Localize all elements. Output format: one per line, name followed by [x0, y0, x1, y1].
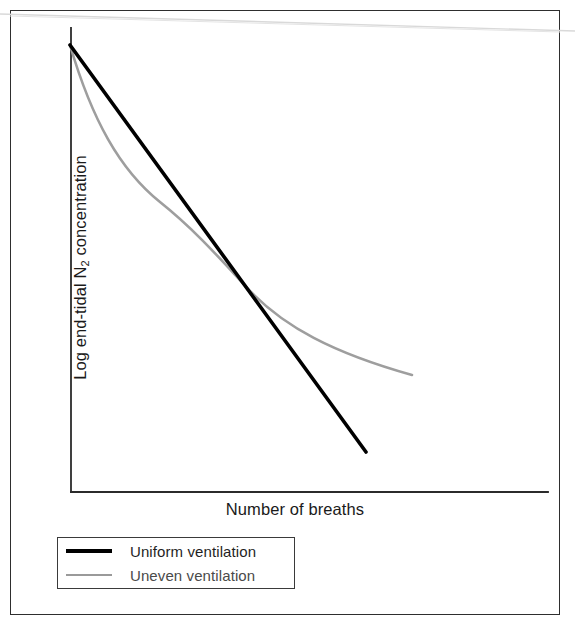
figure-root: Log end-tidal N2 concentration Number of…	[0, 0, 575, 627]
legend-item-uneven-ventilation: Uneven ventilation	[66, 563, 255, 587]
legend-label-uneven-ventilation: Uneven ventilation	[130, 567, 255, 584]
series-line-uneven-ventilation	[70, 45, 412, 375]
legend-swatch-uneven-ventilation	[66, 574, 112, 576]
y-axis-label-suffix: concentration	[71, 155, 89, 260]
series-line-uniform-ventilation	[70, 45, 366, 452]
y-axis-label-subscript: 2	[79, 260, 91, 266]
legend: Uniform ventilation Uneven ventilation	[57, 537, 295, 589]
y-axis-label: Log end-tidal N2 concentration	[71, 128, 90, 408]
legend-swatch-uniform-ventilation	[66, 549, 112, 552]
y-axis-label-prefix: Log end-tidal N	[71, 266, 89, 379]
x-axis-label: Number of breaths	[170, 500, 420, 519]
legend-item-uniform-ventilation: Uniform ventilation	[66, 539, 256, 563]
legend-label-uniform-ventilation: Uniform ventilation	[130, 543, 256, 560]
